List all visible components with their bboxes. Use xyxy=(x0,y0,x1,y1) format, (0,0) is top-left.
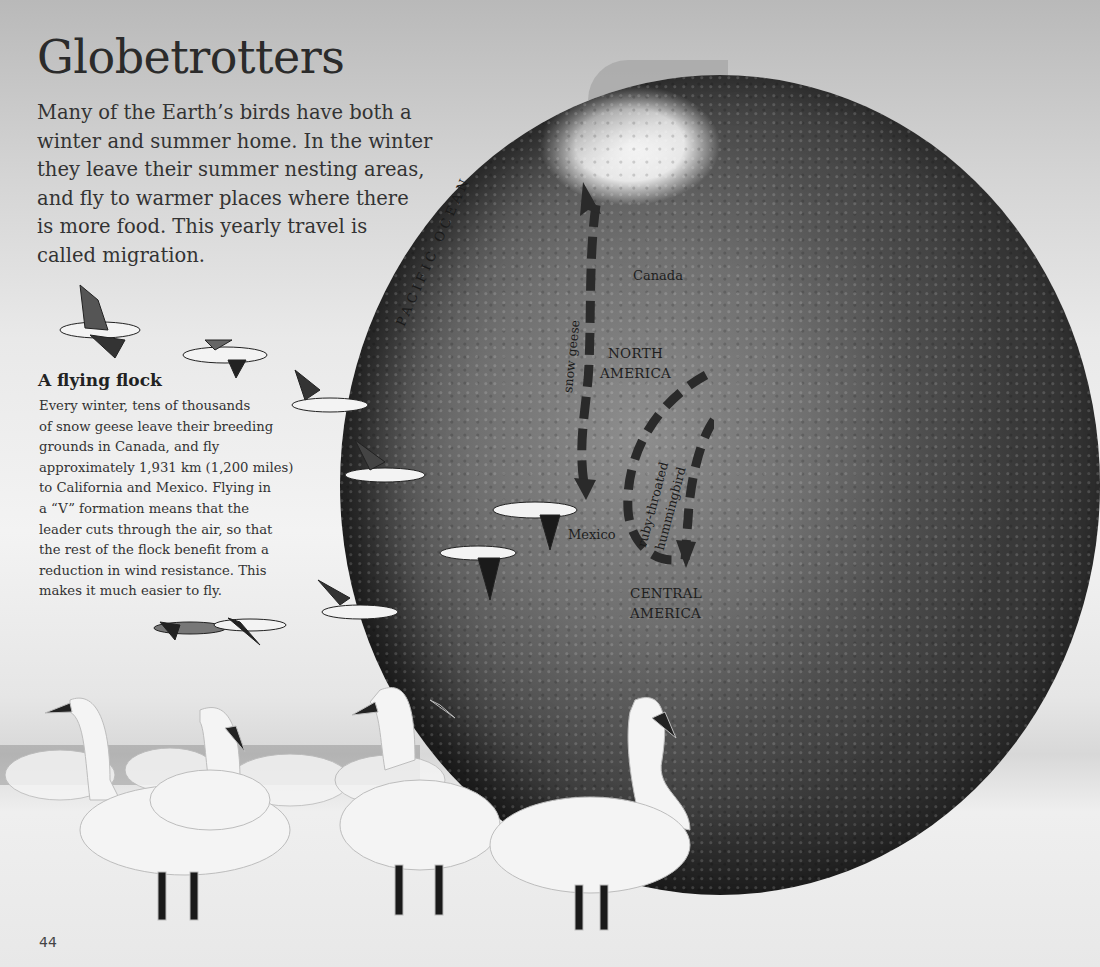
goose-1 xyxy=(60,285,140,358)
section-heading: A flying flock xyxy=(38,370,162,390)
label-north-america-2: AMERICA xyxy=(600,366,671,381)
arrow-up-icon xyxy=(580,182,601,216)
body-line: Every winter, tens of thousands xyxy=(39,396,299,417)
label-mexico: Mexico xyxy=(568,527,616,542)
section-body: Every winter, tens of thousands of snow … xyxy=(39,396,299,602)
arrow-down-icon xyxy=(574,478,596,500)
intro-line: is more food. This yearly travel is xyxy=(37,213,437,242)
body-line: to California and Mexico. Flying in xyxy=(39,478,299,499)
label-north-america-1: NORTH xyxy=(608,346,663,361)
snow-geese-route xyxy=(582,205,596,490)
intro-line: called migration. xyxy=(37,242,437,271)
label-central-america-2: AMERICA xyxy=(630,606,701,621)
page-number: 44 xyxy=(39,934,57,950)
goose-5 xyxy=(493,502,577,550)
intro-paragraph: Many of the Earth’s birds have both a wi… xyxy=(37,99,437,270)
goose-9 xyxy=(214,618,286,645)
goose-3 xyxy=(292,370,368,412)
body-line: approximately 1,931 km (1,200 miles) xyxy=(39,458,299,479)
body-line: leader cuts through the air, so that xyxy=(39,520,299,541)
intro-line: and fly to warmer places where there xyxy=(37,185,437,214)
arrow-down-icon xyxy=(676,540,696,568)
page-title: Globetrotters xyxy=(37,30,344,84)
goose-6 xyxy=(440,546,516,600)
body-line: makes it much easier to fly. xyxy=(39,581,299,602)
intro-line: winter and summer home. In the winter xyxy=(37,128,437,157)
goose-4 xyxy=(345,440,425,482)
intro-line: Many of the Earth’s birds have both a xyxy=(37,99,437,128)
body-line: grounds in Canada, and fly xyxy=(39,437,299,458)
body-line: the rest of the flock benefit from a xyxy=(39,540,299,561)
swan-right xyxy=(490,698,690,931)
label-canada: Canada xyxy=(633,268,683,283)
label-central-america-1: CENTRAL xyxy=(630,586,702,601)
goose-7 xyxy=(318,580,398,619)
body-line: reduction in wind resistance. This xyxy=(39,561,299,582)
swan-center xyxy=(340,688,500,915)
body-line: a “V” formation means that the xyxy=(39,499,299,520)
body-line: of snow geese leave their breeding xyxy=(39,417,299,438)
intro-line: they leave their summer nesting areas, xyxy=(37,156,437,185)
goose-2 xyxy=(183,340,267,378)
swans xyxy=(5,688,690,930)
